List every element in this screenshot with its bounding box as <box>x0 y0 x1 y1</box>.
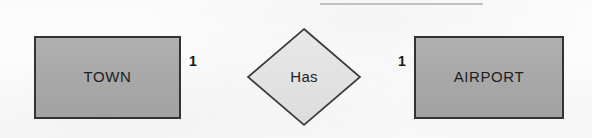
entity-town[interactable]: TOWN <box>35 37 180 118</box>
entity-airport[interactable]: AIRPORT <box>415 37 563 118</box>
connector-town-has: 1 <box>180 53 248 77</box>
entity-label-town: TOWN <box>84 68 132 85</box>
connector-has-airport: 1 <box>360 53 415 77</box>
er-diagram-canvas: 1 1 TOWN AIRPORT Has <box>0 0 592 138</box>
cardinality-airport: 1 <box>398 53 406 69</box>
relationship-has[interactable]: Has <box>248 29 360 125</box>
entity-label-airport: AIRPORT <box>454 68 525 85</box>
cardinality-town: 1 <box>189 53 197 69</box>
er-diagram: 1 1 TOWN AIRPORT Has <box>0 0 592 138</box>
page-rule-fragment <box>320 3 483 5</box>
relationship-label-has: Has <box>290 68 317 85</box>
